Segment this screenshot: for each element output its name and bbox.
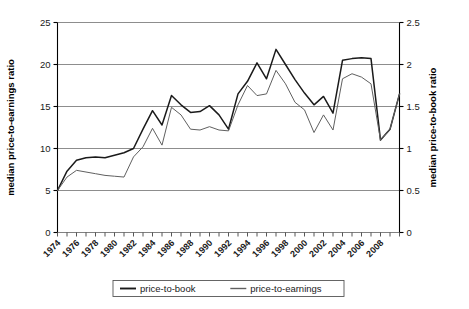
y-axis-tick-label: 25: [40, 17, 51, 28]
chart-background: [0, 0, 469, 309]
legend-label-price-to-book: price-to-book: [140, 283, 196, 294]
y-axis-tick-label: 5: [45, 185, 50, 196]
chart-legend: price-to-bookprice-to-earnings: [113, 281, 344, 297]
y-axis-tick-label: 0: [45, 227, 50, 238]
y2-axis-tick-label: 1.5: [407, 101, 420, 112]
y2-axis-title: median price-to-book ratio: [427, 67, 438, 187]
y-axis-tick-label: 20: [40, 59, 51, 70]
y2-axis-tick-label: 2.5: [407, 17, 420, 28]
line-chart: 0510152025 00.511.522.5 1974197619781980…: [0, 0, 469, 309]
legend-label-price-to-earnings: price-to-earnings: [250, 283, 322, 294]
chart-container: 0510152025 00.511.522.5 1974197619781980…: [0, 0, 469, 309]
y2-axis-tick-label: 2: [407, 59, 412, 70]
y-axis-title: median price-to-earnings ratio: [5, 59, 16, 196]
y2-axis-tick-label: 0: [407, 227, 412, 238]
y-axis-tick-label: 10: [40, 143, 51, 154]
y2-axis-tick-label: 1: [407, 143, 412, 154]
y-axis-tick-label: 15: [40, 101, 51, 112]
y2-axis-tick-label: 0.5: [407, 185, 420, 196]
